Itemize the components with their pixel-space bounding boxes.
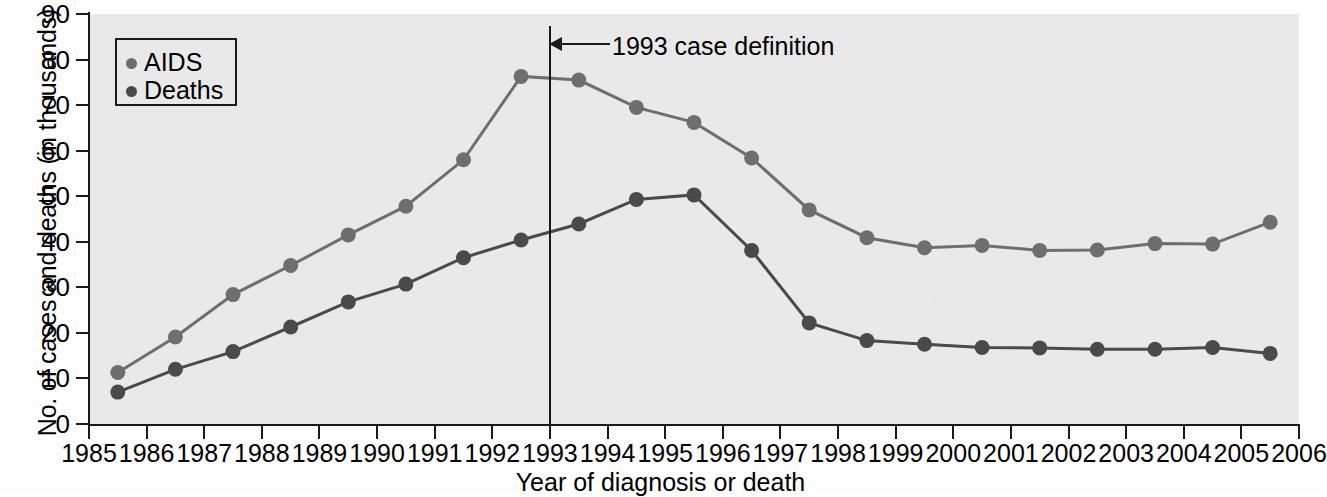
data-point-deaths bbox=[802, 315, 817, 330]
data-point-aids bbox=[629, 100, 644, 115]
data-point-deaths bbox=[1148, 342, 1163, 357]
data-point-aids bbox=[1263, 215, 1278, 230]
data-point-deaths bbox=[1205, 340, 1220, 355]
data-point-deaths bbox=[917, 337, 932, 352]
x-axis-title: Year of diagnosis or death bbox=[0, 468, 1321, 497]
data-point-deaths bbox=[1090, 342, 1105, 357]
data-point-deaths bbox=[456, 250, 471, 265]
data-point-aids bbox=[283, 258, 298, 273]
data-point-deaths bbox=[1263, 346, 1278, 361]
data-point-deaths bbox=[571, 217, 586, 232]
data-point-deaths bbox=[226, 344, 241, 359]
data-point-deaths bbox=[514, 233, 529, 248]
data-point-aids bbox=[859, 230, 874, 245]
data-point-deaths bbox=[283, 320, 298, 335]
data-point-aids bbox=[514, 69, 529, 84]
data-point-aids bbox=[802, 202, 817, 217]
data-point-aids bbox=[917, 240, 932, 255]
data-point-aids bbox=[168, 330, 183, 345]
data-point-aids bbox=[1090, 243, 1105, 258]
data-point-deaths bbox=[341, 294, 356, 309]
legend-item-deaths: Deaths bbox=[126, 78, 223, 103]
data-point-aids bbox=[226, 287, 241, 302]
data-point-aids bbox=[110, 365, 125, 380]
data-point-aids bbox=[1148, 236, 1163, 251]
data-point-aids bbox=[1032, 243, 1047, 258]
annotation-arrow-head-icon bbox=[549, 37, 562, 51]
data-point-deaths bbox=[1032, 340, 1047, 355]
legend-item-aids: AIDS bbox=[126, 50, 202, 75]
data-point-deaths bbox=[110, 385, 125, 400]
legend-label-aids: AIDS bbox=[144, 48, 202, 76]
data-point-deaths bbox=[687, 187, 702, 202]
data-point-deaths bbox=[744, 243, 759, 258]
data-point-aids bbox=[744, 151, 759, 166]
series-line-deaths bbox=[118, 195, 1270, 392]
data-point-deaths bbox=[168, 362, 183, 377]
data-point-aids bbox=[975, 238, 990, 253]
data-point-aids bbox=[571, 73, 586, 88]
data-point-deaths bbox=[859, 333, 874, 348]
chart-legend: AIDS Deaths bbox=[115, 38, 237, 106]
annotation-label: 1993 case definition bbox=[612, 32, 834, 61]
case-definition-vline bbox=[549, 26, 551, 425]
data-point-aids bbox=[341, 227, 356, 242]
data-point-deaths bbox=[975, 340, 990, 355]
data-point-deaths bbox=[629, 192, 644, 207]
data-point-aids bbox=[687, 115, 702, 130]
legend-label-deaths: Deaths bbox=[144, 76, 223, 104]
circle-marker-icon bbox=[126, 58, 137, 69]
circle-marker-icon bbox=[126, 86, 137, 97]
data-point-aids bbox=[1205, 237, 1220, 252]
data-point-aids bbox=[398, 199, 413, 214]
data-point-deaths bbox=[398, 277, 413, 292]
data-point-aids bbox=[456, 152, 471, 167]
